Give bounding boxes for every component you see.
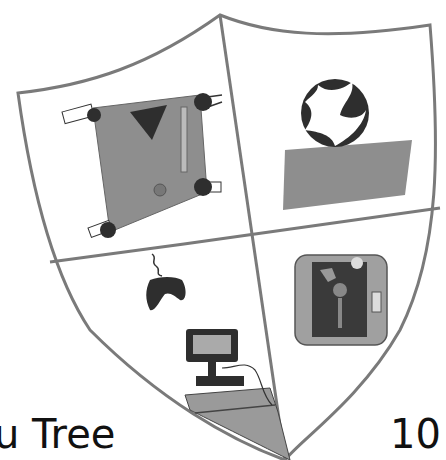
caption-right: 10 (390, 414, 441, 454)
caption-left: u Tree (0, 414, 115, 454)
shield-drawing (0, 0, 446, 460)
television-icon (295, 255, 387, 345)
